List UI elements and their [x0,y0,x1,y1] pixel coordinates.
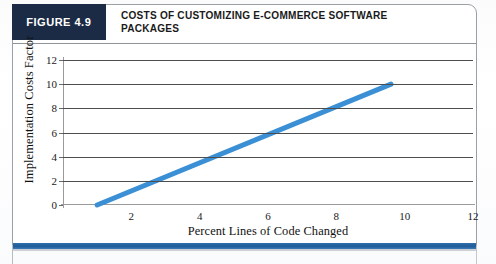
y-tick-mark [59,157,63,158]
gridline-y [63,133,473,134]
y-tick-mark [59,181,63,182]
x-tick-label: 2 [129,210,135,222]
gridline-y [63,60,473,61]
figure-number-label: FIGURE 4.9 [27,16,92,28]
y-tick-label: 0 [52,199,58,211]
y-axis-label: Implementation Costs Factor [22,35,37,185]
figure-container: FIGURE 4.9 COSTS OF CUSTOMIZING E-COMMER… [12,4,477,246]
y-tick-mark [59,60,63,61]
x-tick-label: 6 [265,210,271,222]
gridline-y [63,108,473,109]
y-tick-label: 6 [52,127,58,139]
gridline-y [63,181,473,182]
y-tick-mark [59,108,63,109]
y-tick-label: 8 [52,102,58,114]
y-tick-mark [59,133,63,134]
x-tick-label: 4 [197,210,203,222]
y-tick-label: 4 [52,151,58,163]
y-tick-label: 10 [46,78,57,90]
figure-title: COSTS OF CUSTOMIZING E-COMMERCE SOFTWARE… [121,9,451,36]
y-tick-label: 2 [52,175,58,187]
figure-title-line-1: COSTS OF CUSTOMIZING E-COMMERCE SOFTWARE [121,9,451,22]
gridline-y [63,157,473,158]
x-tick-label: 10 [399,210,410,222]
y-tick-mark [59,205,63,206]
page-right-margin-rule [476,246,477,264]
y-tick-mark [59,84,63,85]
x-tick-label: 8 [334,210,340,222]
page-left-margin-rule [12,246,13,264]
y-tick-label: 12 [46,54,57,66]
series-line [97,84,391,205]
figure-bottom-rule-shadow [13,249,476,251]
x-axis-label: Percent Lines of Code Changed [63,224,473,239]
figure-header: FIGURE 4.9 COSTS OF CUSTOMIZING E-COMMER… [13,5,476,44]
gridline-y [63,84,473,85]
figure-title-line-2: PACKAGES [121,22,451,35]
x-tick-label: 12 [468,210,479,222]
plot-area: 02468101224681012 [63,60,473,205]
chart-region: Implementation Costs Factor 024681012246… [13,44,476,246]
